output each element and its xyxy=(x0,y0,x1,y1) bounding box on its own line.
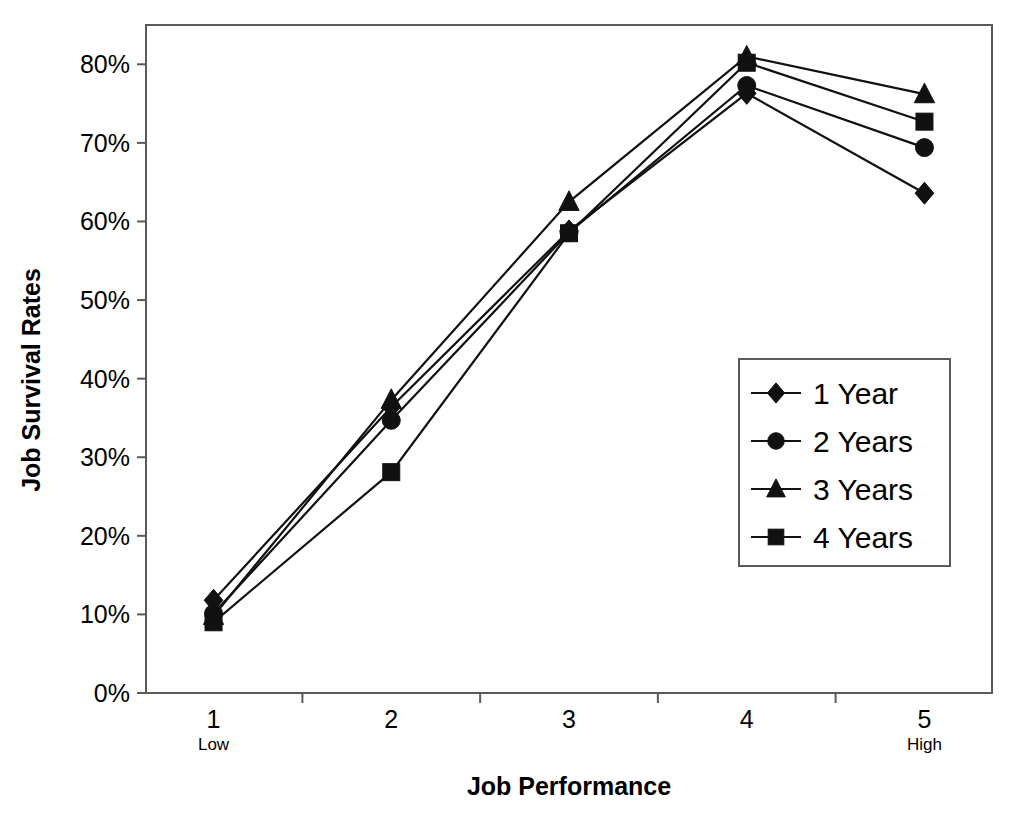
y-axis-tick-labels: 0%10%20%30%40%50%60%70%80% xyxy=(80,50,130,707)
y-tick-label: 10% xyxy=(80,600,130,628)
y-tick-label: 0% xyxy=(94,679,130,707)
square-marker xyxy=(738,54,755,71)
x-axis-title: Job Performance xyxy=(467,772,671,800)
diamond-marker xyxy=(915,182,934,204)
y-tick-label: 40% xyxy=(80,365,130,393)
chart-legend: 1 Year2 Years3 Years4 Years xyxy=(739,359,950,566)
square-marker xyxy=(768,529,784,545)
x-tick-sublabel: Low xyxy=(198,735,230,754)
y-tick-label: 70% xyxy=(80,129,130,157)
x-tick-label: 1 xyxy=(207,705,221,733)
job-survival-line-chart: 0%10%20%30%40%50%60%70%80% 1Low2345High … xyxy=(0,0,1016,816)
circle-marker xyxy=(768,433,785,450)
circle-marker xyxy=(382,411,400,429)
y-tick-label: 80% xyxy=(80,50,130,78)
legend-label: 4 Years xyxy=(813,521,913,554)
x-tick-label: 5 xyxy=(918,705,932,733)
x-axis-ticks xyxy=(302,693,835,703)
y-axis-title: Job Survival Rates xyxy=(17,268,45,492)
square-marker xyxy=(916,113,933,130)
circle-marker xyxy=(915,139,933,157)
legend-label: 2 Years xyxy=(813,425,913,458)
x-tick-label: 4 xyxy=(740,705,754,733)
y-tick-label: 30% xyxy=(80,443,130,471)
chart-container: 0%10%20%30%40%50%60%70%80% 1Low2345High … xyxy=(0,0,1016,816)
x-tick-label: 2 xyxy=(384,705,398,733)
x-tick-label: 3 xyxy=(562,705,576,733)
square-marker xyxy=(561,225,578,242)
legend-label: 1 Year xyxy=(813,377,898,410)
x-axis-tick-labels: 1Low2345High xyxy=(198,705,942,754)
circle-marker xyxy=(738,77,756,95)
square-marker xyxy=(383,464,400,481)
y-tick-label: 20% xyxy=(80,522,130,550)
legend-label: 3 Years xyxy=(813,473,913,506)
square-marker xyxy=(205,614,222,631)
x-tick-sublabel: High xyxy=(907,735,942,754)
y-tick-label: 50% xyxy=(80,286,130,314)
triangle-marker xyxy=(559,191,579,211)
y-tick-label: 60% xyxy=(80,207,130,235)
y-axis-ticks xyxy=(137,64,146,693)
